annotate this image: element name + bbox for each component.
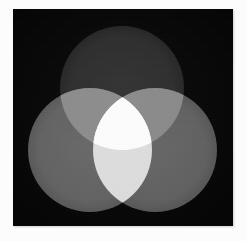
page-margin-left [0,0,13,241]
page-margin-right [233,0,247,241]
page-margin-bottom [0,226,247,241]
venn-diagram [13,9,233,226]
page-margin-top [0,0,247,9]
photo-panel [13,9,233,226]
screenshot-root: Three large overlapping circles of light… [0,0,247,241]
